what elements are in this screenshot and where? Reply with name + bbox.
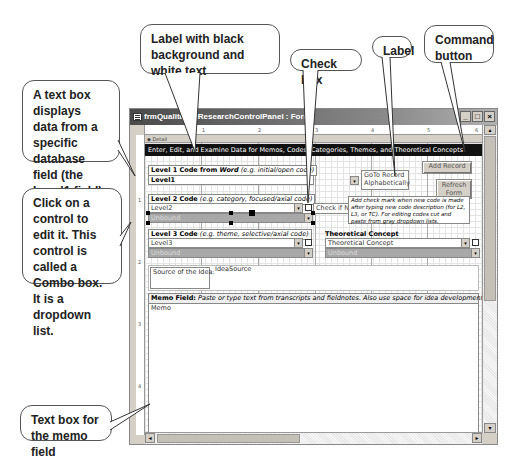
level3-combo-value: Level3 (151, 239, 172, 247)
maximize-button[interactable]: □ (472, 111, 483, 122)
add-record-button[interactable]: Add Record (422, 161, 472, 174)
section-label: Detail (152, 136, 167, 142)
horizontal-scrollbar[interactable]: ◂ ▸ (145, 432, 482, 444)
ruler-mark: 6 (475, 127, 478, 133)
ruler-mark: 1 (138, 197, 141, 203)
form-design-canvas[interactable]: Enter, Edit, and Examine Data for Memos,… (145, 143, 482, 433)
dropdown-arrow-icon[interactable]: ▾ (461, 239, 469, 247)
theoretical-new-checkbox[interactable] (472, 239, 479, 246)
selection-handle[interactable] (146, 211, 150, 215)
callout-check-box: Check box (290, 49, 362, 71)
callout-text-box-field: A text box displays data from a specific… (22, 80, 120, 162)
memo-text-box[interactable]: Memo (148, 303, 479, 433)
level3-combo-box[interactable]: Level3 ▾ (148, 238, 303, 248)
level2-unbound-value: Unbound (151, 214, 180, 222)
goto-record-combo[interactable]: ▾ (350, 176, 359, 185)
theoretical-unbound-combo[interactable]: Unbound ▾ (325, 248, 480, 258)
dropdown-arrow-icon[interactable]: ▾ (471, 249, 479, 257)
goto-record-label[interactable]: GoTo Record Alphabetically (361, 170, 409, 190)
dropdown-arrow-icon[interactable]: ▾ (294, 204, 302, 212)
ruler-mark: 4 (138, 383, 141, 389)
source-label[interactable]: Source of the Idea: (150, 267, 210, 289)
selection-handle[interactable] (146, 221, 150, 225)
level2-combo-box[interactable]: Level2 ▾ (148, 203, 303, 213)
callout-memo-text-box: Text box for the memo field (20, 405, 112, 441)
source-text-box[interactable]: IdeaSource (215, 265, 251, 274)
level1-text-box[interactable]: Level1 (148, 175, 314, 185)
move-handle[interactable] (249, 210, 255, 216)
selection-handle[interactable] (229, 211, 233, 215)
horizontal-scroll-thumb[interactable] (157, 434, 300, 443)
minimize-button[interactable]: _ (460, 111, 471, 122)
ruler-mark: 2 (138, 259, 141, 265)
level3-unbound-value: Unbound (151, 249, 180, 257)
theoretical-combo-value: Theoretical Concept (328, 239, 393, 247)
vertical-scrollbar[interactable]: ▴ ▾ (482, 125, 497, 433)
callout-combo-box: Click on a control to edit it. This cont… (22, 188, 122, 284)
callout-label: Label (372, 36, 412, 58)
form-icon (133, 113, 142, 121)
ruler-mark: 3 (138, 321, 141, 327)
scroll-right-arrow-icon[interactable]: ▸ (472, 433, 482, 443)
dropdown-arrow-icon[interactable]: ▾ (304, 249, 312, 257)
ruler-mark: 5 (427, 127, 430, 133)
detail-section-bar[interactable]: ◆ Detail (145, 135, 482, 143)
vertical-ruler: 1 2 3 4 (136, 135, 145, 435)
form-design-window: frmQualitativeResearchControlPanel : For… (129, 108, 498, 445)
callout-command-button: Command button (424, 25, 494, 63)
header-label[interactable]: Enter, Edit, and Examine Data for Memos,… (145, 144, 482, 156)
callout-label-black-background: Label with black background and white te… (140, 24, 280, 74)
level3-unbound-combo[interactable]: Unbound ▾ (148, 248, 313, 258)
vertical-scroll-thumb[interactable] (484, 136, 496, 301)
scroll-left-arrow-icon[interactable]: ◂ (145, 433, 155, 443)
level2-combo-value: Level2 (151, 204, 172, 212)
selection-handle[interactable] (311, 211, 315, 215)
title-bar[interactable]: frmQualitativeResearchControlPanel : For… (130, 109, 497, 125)
level3-new-checkbox[interactable] (305, 239, 312, 246)
selection-handle[interactable] (229, 221, 233, 225)
ruler-mark: 4 (371, 127, 374, 133)
dropdown-arrow-icon[interactable]: ▾ (294, 239, 302, 247)
scroll-up-arrow-icon[interactable]: ▴ (484, 125, 496, 135)
scroll-down-arrow-icon[interactable]: ▾ (484, 423, 496, 433)
ruler-corner[interactable] (130, 125, 145, 135)
ruler-mark: 3 (315, 127, 318, 133)
theoretical-concept-combo-box[interactable]: Theoretical Concept ▾ (325, 238, 470, 248)
selection-handle[interactable] (311, 221, 315, 225)
ruler-mark: 1 (202, 127, 205, 133)
ruler-mark: 2 (258, 127, 261, 133)
horizontal-ruler: 1 2 3 4 5 6 (145, 125, 482, 135)
check-if-new-checkbox[interactable] (305, 204, 312, 211)
close-button[interactable]: × (484, 111, 495, 122)
theoretical-unbound-value: Unbound (328, 249, 357, 257)
window-title: frmQualitativeResearchControlPanel : For… (144, 112, 311, 121)
new-code-note-label[interactable]: Add check mark when new code is made aft… (348, 196, 470, 224)
